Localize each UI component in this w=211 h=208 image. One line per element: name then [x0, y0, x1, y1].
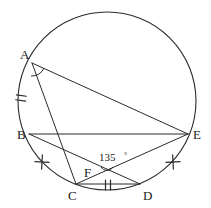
- vertex-label-d: D: [143, 188, 152, 203]
- angle-arc-a: [31, 68, 44, 76]
- vertex-label-f: F: [84, 165, 91, 180]
- vertex-label-a: A: [20, 47, 30, 62]
- angle-value-f: 135: [99, 151, 116, 163]
- tick-arc-de: [166, 155, 180, 169]
- vertex-label-b: B: [17, 127, 26, 142]
- circumscribed-circle: [18, 12, 196, 190]
- geometry-figure: A B C D E F 135 °: [0, 0, 211, 208]
- chord-a-c: [32, 63, 76, 184]
- geometry-canvas: A B C D E F 135 °: [0, 0, 211, 208]
- chord-c-e: [76, 134, 188, 184]
- vertex-label-e: E: [193, 127, 201, 142]
- vertex-label-c: C: [68, 188, 77, 203]
- degree-symbol-f: °: [124, 151, 127, 160]
- chord-a-e: [32, 63, 188, 134]
- tick-segment-cd: [106, 180, 111, 190]
- tick-arc-ab: [16, 95, 27, 101]
